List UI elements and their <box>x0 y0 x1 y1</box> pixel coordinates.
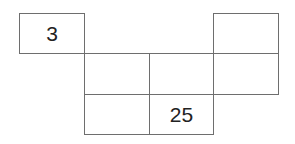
grid-cell-r2-c1 <box>84 94 150 135</box>
grid-cell-r0-c3 <box>213 13 279 54</box>
grid-cell-r1-c3 <box>213 53 279 95</box>
grid-cell-r0-c0: 3 <box>19 13 85 54</box>
grid-cell-r1-c2 <box>149 53 214 95</box>
grid-cell-r2-c2: 25 <box>149 94 214 135</box>
grid-cell-r1-c1 <box>84 53 150 95</box>
